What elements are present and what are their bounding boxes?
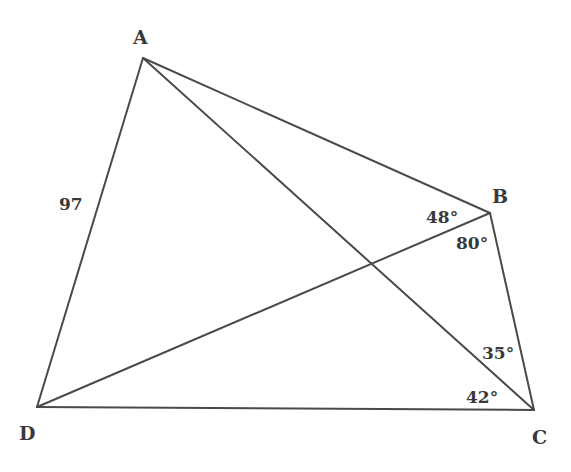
- geometry-diagram: A B C D 97 48° 80° 35° 42°: [0, 0, 571, 472]
- vertex-label-c: C: [532, 426, 547, 448]
- angle-label-acd: 42°: [466, 387, 498, 407]
- vertex-label-a: A: [132, 26, 148, 48]
- side-bc: [490, 213, 534, 410]
- side-ab: [143, 58, 490, 213]
- angle-label-dbc: 80°: [456, 233, 488, 253]
- vertex-label-d: D: [19, 422, 35, 444]
- side-da: [37, 58, 143, 407]
- angle-label-abd: 48°: [426, 207, 458, 227]
- side-cd: [37, 407, 534, 410]
- vertex-label-b: B: [492, 185, 508, 207]
- side-length-label-ad: 97: [59, 194, 83, 214]
- angle-label-bca: 35°: [482, 343, 514, 363]
